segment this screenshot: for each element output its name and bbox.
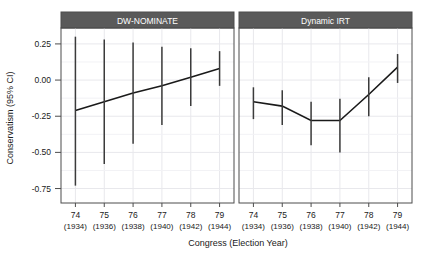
panel-border (61, 28, 234, 203)
x-tick-label-year: (1942) (179, 222, 202, 231)
x-tick-label-congress: 79 (215, 210, 225, 220)
estimate-line (253, 67, 397, 121)
y-axis-title: Conservatism (95% CI) (5, 71, 15, 164)
dot-whisker-chart: Conservatism (95% CI) Congress (Election… (0, 0, 428, 271)
x-tick-label-year: (1934) (242, 222, 265, 231)
y-tick-label: 0.00 (34, 75, 51, 85)
y-tick-label: -0.75 (32, 184, 52, 194)
x-tick-label-year: (1940) (328, 222, 351, 231)
x-tick-label-congress: 75 (100, 210, 110, 220)
panel-border (239, 28, 412, 203)
x-tick-label-year: (1942) (357, 222, 380, 231)
panel-group: DW-NOMINATE74(1934)75(1936)76(1938)77(19… (61, 12, 412, 231)
x-tick-label-year: (1936) (93, 222, 116, 231)
x-axis-title: Congress (Election Year) (188, 238, 288, 248)
y-tick-label: -0.50 (32, 147, 52, 157)
chart-figure: Conservatism (95% CI) Congress (Election… (0, 0, 428, 271)
x-tick-label-congress: 74 (71, 210, 81, 220)
panel-1: DW-NOMINATE74(1934)75(1936)76(1938)77(19… (61, 12, 234, 231)
x-tick-label-congress: 78 (186, 210, 196, 220)
y-axis: 0.250.00-0.25-0.50-0.75 (32, 39, 61, 194)
x-tick-label-year: (1936) (271, 222, 294, 231)
panel-2: Dynamic IRT74(1934)75(1936)76(1938)77(19… (239, 12, 412, 231)
x-tick-label-congress: 75 (278, 210, 288, 220)
x-tick-label-congress: 77 (335, 210, 345, 220)
estimate-line (75, 69, 219, 111)
x-tick-label-year: (1944) (386, 222, 409, 231)
x-tick-label-year: (1938) (122, 222, 145, 231)
x-tick-label-year: (1934) (64, 222, 87, 231)
y-tick-label: -0.25 (32, 111, 52, 121)
x-tick-label-congress: 78 (364, 210, 374, 220)
x-tick-label-congress: 74 (249, 210, 259, 220)
x-tick-label-congress: 76 (128, 210, 138, 220)
panel-strip-label: Dynamic IRT (301, 16, 350, 26)
x-tick-label-year: (1940) (150, 222, 173, 231)
y-tick-label: 0.25 (34, 39, 51, 49)
panel-strip-label: DW-NOMINATE (117, 16, 178, 26)
x-tick-label-year: (1938) (300, 222, 323, 231)
x-tick-label-congress: 76 (306, 210, 316, 220)
x-tick-label-year: (1944) (208, 222, 231, 231)
x-tick-label-congress: 77 (157, 210, 167, 220)
x-tick-label-congress: 79 (393, 210, 403, 220)
